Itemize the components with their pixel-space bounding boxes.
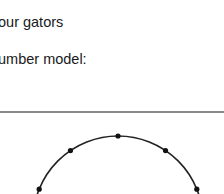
circle-dot [115,133,120,138]
circle-dots [37,133,200,191]
circle-dot [68,148,73,153]
circle-dot [163,148,168,153]
number-model-circle [0,0,224,194]
circle-dot [194,187,199,192]
circle-dot [37,187,42,192]
